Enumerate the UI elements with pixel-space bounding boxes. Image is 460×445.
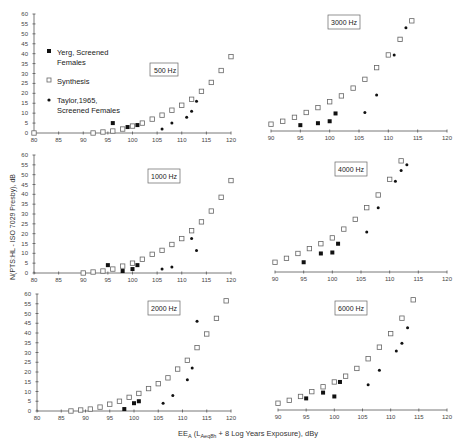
x-tick-label: 105	[152, 137, 163, 143]
freq-label-1000: 1000 Hz	[148, 169, 180, 183]
dot-point	[394, 180, 397, 183]
series-open-square	[69, 299, 229, 414]
panel-6000hz: 9095100105110115120	[275, 298, 453, 420]
open-square-point	[284, 256, 288, 260]
dot-point	[186, 378, 189, 381]
open-square-point	[91, 131, 95, 135]
filled-square-point	[330, 251, 334, 255]
series-filled-square	[122, 399, 141, 411]
filled-square-point	[319, 251, 323, 255]
y-tick-label: 50	[21, 31, 28, 37]
dot-point	[406, 326, 409, 329]
x-tick-label: 95	[105, 277, 112, 283]
open-square-point	[351, 86, 355, 90]
open-square-point	[140, 121, 144, 125]
filled-square-point	[336, 242, 340, 246]
open-square-point	[374, 65, 378, 69]
open-square-point	[130, 124, 134, 128]
dot-point	[367, 383, 370, 386]
y-tick-label: 20	[21, 90, 28, 96]
open-square-point	[170, 108, 174, 112]
x-tick-label: 105	[152, 277, 163, 283]
x-tick-label: 95	[297, 135, 304, 141]
open-square-point	[229, 54, 233, 58]
x-tick-label: 80	[31, 277, 38, 283]
open-square-point	[330, 236, 334, 240]
open-square-point	[130, 261, 134, 265]
open-square-point	[205, 332, 209, 336]
y-tick-label: 45	[21, 182, 28, 188]
open-square-point	[292, 115, 296, 119]
x-tick-label: 90	[80, 277, 87, 283]
x-tick-label: 115	[414, 276, 424, 282]
open-square-point	[111, 267, 115, 271]
filled-square-point	[338, 380, 342, 384]
open-square-point	[353, 217, 357, 221]
open-square-point	[185, 358, 189, 362]
filled-square-point	[302, 260, 306, 264]
x-tick-label: 100	[129, 415, 140, 421]
open-square-point	[199, 220, 203, 224]
open-square-point	[108, 402, 112, 406]
freq-label-4000: 4000 Hz	[335, 162, 367, 176]
open-square-point	[269, 122, 273, 126]
dot-point	[171, 394, 174, 397]
filled-square-point	[321, 391, 325, 395]
x-tick-label: 115	[202, 415, 212, 421]
svg-text:Females: Females	[57, 58, 86, 67]
open-square-point	[388, 331, 392, 335]
x-tick-label: 110	[384, 135, 394, 141]
freq-label-3000: 3000 Hz	[328, 15, 360, 29]
x-tick-label: 95	[303, 414, 310, 420]
open-square-point	[400, 316, 404, 320]
x-tick-label: 120	[442, 414, 453, 420]
open-square-point	[296, 251, 300, 255]
open-square-point	[287, 398, 291, 402]
x-tick-label: 115	[202, 277, 212, 283]
filled-square-point	[132, 401, 136, 405]
legend-item-taylor: Taylor,1965, Screened Females	[47, 96, 120, 115]
legend-item-synthesis: Synthesis	[47, 77, 90, 86]
dot-point	[393, 53, 396, 56]
dot-point	[161, 268, 164, 271]
y-tick-label: 30	[21, 71, 28, 77]
open-square-point	[363, 77, 367, 81]
filled-square-marker-icon	[47, 49, 51, 53]
open-square-point	[321, 385, 325, 389]
y-tick-label: 30	[21, 211, 28, 217]
open-square-point	[224, 299, 228, 303]
dot-point	[170, 122, 173, 125]
filled-square-point	[137, 399, 141, 403]
open-square-point	[281, 119, 285, 123]
y-tick-label: 40	[21, 191, 28, 197]
filled-square-point	[122, 407, 126, 411]
open-square-point	[166, 376, 170, 380]
y-tick-label: 25	[21, 221, 28, 227]
y-tick-label: 45	[24, 320, 31, 326]
svg-text:Screened Females: Screened Females	[57, 106, 120, 115]
panel-3000hz: 9095100105110115120	[268, 19, 453, 141]
x-tick-label: 105	[153, 415, 164, 421]
filled-square-point	[135, 263, 139, 267]
y-axis-label: N(PTS:HL - ISO 7029 Presby), dB	[9, 174, 17, 280]
x-tick-label: 110	[178, 415, 188, 421]
open-square-point	[127, 395, 131, 399]
x-axis-label: EEA (LAeq8h + 8 Log Years Exposure), dBy	[178, 429, 318, 439]
svg-text:Synthesis: Synthesis	[57, 77, 90, 86]
open-square-point	[69, 409, 73, 413]
y-tick-label: 10	[21, 250, 28, 256]
panel-2000hz: 8085909510010511011512005101520253035404…	[24, 291, 236, 421]
open-square-point	[88, 407, 92, 411]
series-filled-square	[298, 37, 402, 127]
open-square-point	[120, 127, 124, 131]
dot-point	[400, 169, 403, 172]
svg-text:2000 Hz: 2000 Hz	[151, 305, 178, 312]
open-square-point	[410, 19, 414, 23]
open-square-point	[180, 103, 184, 107]
y-tick-label: 50	[21, 172, 28, 178]
series-open-square	[269, 19, 414, 127]
filled-square-point	[298, 123, 302, 127]
svg-text:Taylor,1965,: Taylor,1965,	[57, 96, 97, 105]
y-tick-label: 35	[24, 340, 31, 346]
y-tick-label: 50	[24, 311, 31, 317]
